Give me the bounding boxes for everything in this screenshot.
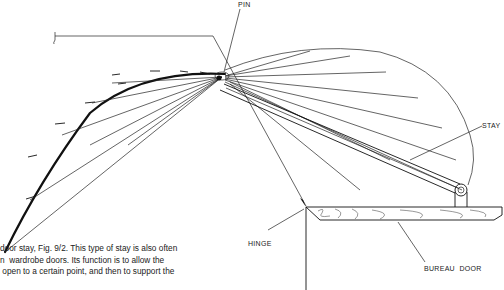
bureau-door-label: BUREAU DOOR xyxy=(424,265,482,272)
caption-text: door stay, Fig. 9/2. This type of stay i… xyxy=(0,243,252,278)
rays-right xyxy=(225,51,462,190)
bureau-door xyxy=(306,207,502,262)
stay-label: STAY xyxy=(482,122,500,129)
rays-left xyxy=(5,77,222,252)
hinge xyxy=(268,198,306,290)
caption-line: open to a certain point, and then to sup… xyxy=(0,266,252,278)
dimension-leader xyxy=(54,32,306,206)
pin-leader xyxy=(224,9,240,72)
stay-bar xyxy=(220,84,460,193)
caption-line: door stay, Fig. 9/2. This type of stay i… xyxy=(0,243,252,255)
stay-swing-arc xyxy=(225,49,474,185)
path-ticks xyxy=(26,71,210,199)
caption-line: n wardrobe doors. Its function is to all… xyxy=(0,255,252,267)
pin-label: PIN xyxy=(238,1,251,8)
stay-leader xyxy=(410,126,482,160)
